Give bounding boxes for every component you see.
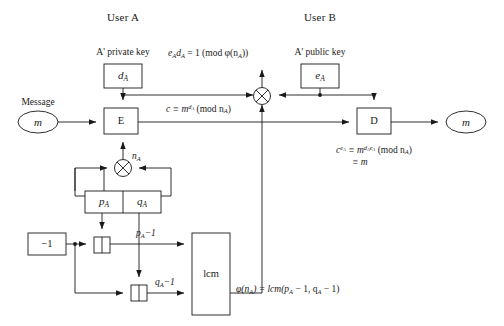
header-user-a: User A [107, 12, 139, 23]
rsa-signature-diagram: User A User B A' private key A' public k… [0, 0, 504, 326]
totient-equation: φ(nA) = lcm(pA − 1, qA − 1) [236, 285, 339, 295]
encrypt-label: E [118, 116, 124, 127]
message-caption: Message [21, 98, 54, 108]
output-symbol: m [462, 117, 470, 128]
verification-equation-line1: ceA ≡ mdAeA (mod nA) [336, 145, 412, 156]
q-a-label: qA [137, 196, 147, 208]
diagram-canvas [0, 0, 504, 326]
decrypt-label: D [370, 116, 378, 127]
q-minus-one-signal-label: qA−1 [155, 278, 175, 288]
p-a-label: pA [99, 196, 109, 208]
verification-equation-line2: ≡ m [352, 158, 368, 168]
lcm-label: lcm [203, 269, 219, 280]
public-key-caption: A' public key [295, 48, 346, 58]
ciphertext-equation: c ≡ mdA (mod nA) [166, 104, 231, 115]
n-a-signal-label: nA [132, 152, 141, 162]
header-user-b: User B [304, 12, 336, 23]
minus-one-label: −1 [41, 239, 52, 250]
key-relation-equation: eAdA = 1 (mod φ(nA)) [168, 49, 248, 59]
public-key-label: eA [315, 70, 324, 82]
multiply-circle-top [254, 88, 271, 105]
private-key-label: dA [118, 70, 128, 82]
multiply-circle-keygen [115, 160, 132, 177]
message-symbol: m [34, 117, 42, 128]
p-minus-one-signal-label: pA−1 [136, 229, 156, 239]
private-key-caption: A' private key [96, 48, 149, 58]
